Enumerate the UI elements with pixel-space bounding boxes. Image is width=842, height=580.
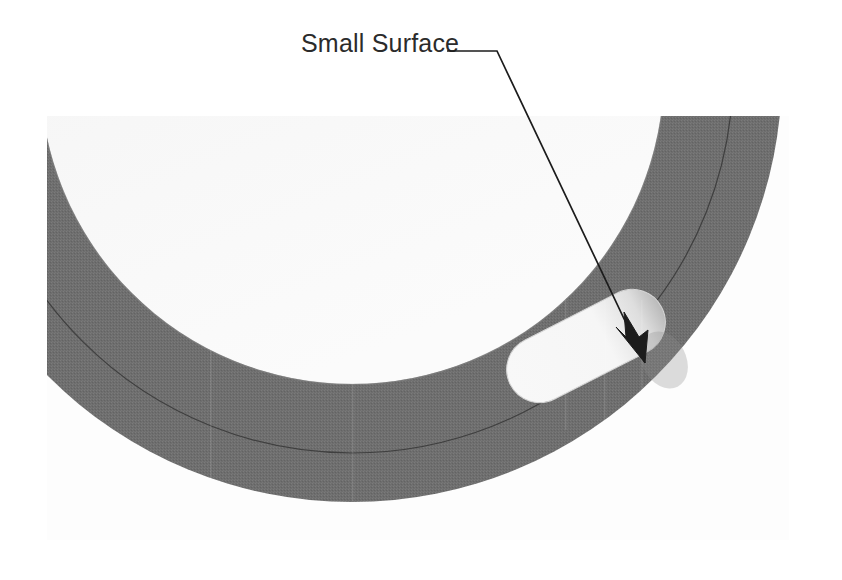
- figure-content: [0, 0, 842, 580]
- illustration-page: Small Surface: [0, 0, 842, 580]
- annular-wall-band: [0, 0, 842, 580]
- technical-illustration-figure: Small Surface: [0, 0, 842, 580]
- callout-label: Small Surface: [301, 29, 459, 57]
